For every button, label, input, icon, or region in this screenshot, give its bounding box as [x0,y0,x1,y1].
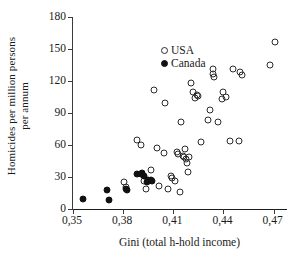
scatter-plot-figure: Homicides per million persons per annum … [0,0,298,266]
y-tick-label: 150 [36,43,66,55]
data-point-usa [137,142,144,149]
legend-item-usa: USA [161,44,205,57]
plot-area: USA Canada [72,17,287,210]
y-tick-label: 90 [36,107,66,119]
x-tick-label: 0,41 [162,214,182,227]
y-tick-label: 30 [36,171,66,183]
data-point-usa [204,117,211,124]
open-circle-icon [161,47,168,54]
data-point-usa [235,137,242,144]
legend: USA Canada [161,44,205,70]
data-point-usa [195,92,202,99]
data-point-usa [177,118,184,125]
data-point-usa [147,167,154,174]
y-axis-title-line1: Homicides per million persons [5,37,17,175]
data-point-usa [272,38,279,45]
data-point-canada [124,187,131,194]
data-point-usa [187,80,194,87]
data-point-usa [238,71,245,78]
legend-label-usa: USA [171,44,194,57]
data-point-usa [171,177,178,184]
data-point-usa [229,66,236,73]
data-point-usa [184,168,191,175]
legend-item-canada: Canada [161,57,205,70]
y-tick-label: 120 [36,75,66,87]
data-point-usa [177,189,184,196]
y-tick-mark [68,17,73,18]
data-point-usa [142,186,149,193]
data-point-canada [149,177,156,184]
data-point-usa [210,66,217,73]
x-tick-label: 0,44 [212,214,232,227]
y-tick-mark [68,81,73,82]
data-point-usa [161,100,168,107]
y-axis-title: Homicides per million persons per annum [0,0,36,212]
y-tick-mark [68,145,73,146]
data-point-canada [105,197,112,204]
x-tick-label: 0,47 [263,214,283,227]
y-axis-title-line2: per annum [18,37,31,175]
x-axis-title: Gini (total h-hold income) [72,236,287,249]
filled-circle-icon [161,60,168,67]
data-point-usa [214,119,221,126]
data-point-canada [104,187,111,194]
legend-label-canada: Canada [171,57,205,70]
data-point-usa [222,94,229,101]
data-point-usa [165,185,172,192]
data-point-usa [151,86,158,93]
data-point-usa [161,150,168,157]
y-tick-label: 180 [36,11,66,23]
y-tick-mark [68,49,73,50]
y-tick-mark [68,113,73,114]
y-tick-mark [68,177,73,178]
data-point-usa [186,154,193,161]
x-tick-label: 0,35 [62,214,82,227]
data-point-canada [80,196,87,203]
data-point-usa [156,182,163,189]
y-tick-label: 60 [36,139,66,151]
data-point-usa [182,146,189,153]
data-point-usa [267,62,274,69]
x-axis-tick-labels: 0,350,380,410,440,47 [72,214,287,232]
data-point-usa [207,106,214,113]
data-point-usa [153,145,160,152]
data-point-usa [197,139,204,146]
data-point-usa [227,137,234,144]
x-tick-label: 0,38 [112,214,132,227]
data-point-usa [211,73,218,80]
